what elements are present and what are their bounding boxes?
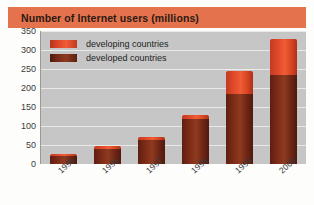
y-axis-tick-label: 350 <box>2 27 36 36</box>
page-title: Number of Internet users (millions) <box>21 12 199 24</box>
y-axis-tick-label: 250 <box>2 65 36 74</box>
legend-item: developed countries <box>50 52 169 63</box>
chart-root: Number of Internet users (millions) 0501… <box>0 0 314 205</box>
gridline <box>41 88 306 89</box>
gridline <box>41 126 306 127</box>
gridline <box>41 107 306 108</box>
bar-segment-developed <box>226 94 253 164</box>
y-axis-tick-label: 150 <box>2 103 36 112</box>
developed-swatch <box>50 54 77 62</box>
bar-stack <box>226 71 253 164</box>
gridline <box>41 69 306 70</box>
gridline <box>41 31 306 32</box>
legend-item-label: developed countries <box>86 53 167 63</box>
bar-segment-developing <box>270 39 297 75</box>
y-axis-tick-label: 300 <box>2 46 36 55</box>
bar-segment-developing <box>226 71 253 94</box>
y-axis-tick-label: 200 <box>2 84 36 93</box>
y-axis-tick-label: 50 <box>2 141 36 150</box>
chart-legend: developing countriesdeveloped countries <box>50 38 169 66</box>
chart-title-banner: Number of Internet users (millions) <box>8 7 306 28</box>
bar-stack <box>270 39 297 164</box>
y-axis-tick-label: 0 <box>2 160 36 169</box>
y-axis-tick-label: 100 <box>2 122 36 131</box>
developing-swatch <box>50 40 77 48</box>
bar-segment-developed <box>270 75 297 164</box>
legend-item: developing countries <box>50 38 169 49</box>
legend-item-label: developing countries <box>86 39 169 49</box>
gridline <box>41 145 306 146</box>
